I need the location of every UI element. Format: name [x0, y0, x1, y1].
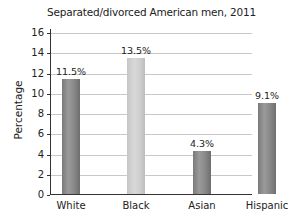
bar-hispanic	[258, 103, 276, 194]
y-tick-mark	[47, 114, 50, 115]
x-axis-line	[50, 194, 252, 195]
bar-asian	[193, 151, 211, 194]
y-tick-mark	[47, 94, 50, 95]
y-tick-mark	[47, 155, 50, 156]
y-tick-mark	[47, 53, 50, 54]
y-tick-mark	[47, 175, 50, 176]
bar-black	[127, 58, 145, 194]
y-tick-mark	[47, 33, 50, 34]
y-tick-mark	[47, 134, 50, 135]
x-tick-label: Asian	[172, 200, 232, 211]
y-tick-label: 16	[28, 27, 44, 38]
y-tick-label: 0	[28, 189, 44, 200]
bar-white	[62, 79, 80, 194]
gridline	[51, 175, 252, 176]
chart-title: Separated/divorced American men, 2011	[0, 6, 303, 18]
plot-area: 024681012141611.5%13.5%4.3%9.1%	[50, 33, 250, 195]
gridline	[51, 114, 252, 115]
value-label: 13.5%	[116, 45, 156, 56]
gridline	[51, 134, 252, 135]
y-tick-label: 8	[28, 108, 44, 119]
value-label: 9.1%	[247, 90, 287, 101]
y-tick-label: 14	[28, 47, 44, 58]
gridline	[51, 94, 252, 95]
y-axis-label: Percentage	[12, 80, 24, 140]
gridline	[51, 33, 252, 34]
y-tick-label: 2	[28, 169, 44, 180]
y-tick-mark	[47, 195, 50, 196]
y-tick-mark	[47, 74, 50, 75]
y-tick-label: 10	[28, 88, 44, 99]
y-tick-label: 6	[28, 128, 44, 139]
y-tick-label: 12	[28, 68, 44, 79]
x-tick-label: White	[41, 200, 101, 211]
value-label: 4.3%	[182, 138, 222, 149]
x-tick-label: Black	[106, 200, 166, 211]
x-tick-label: Hispanic	[237, 200, 297, 211]
value-label: 11.5%	[51, 66, 91, 77]
y-tick-label: 4	[28, 149, 44, 160]
gridline	[51, 155, 252, 156]
